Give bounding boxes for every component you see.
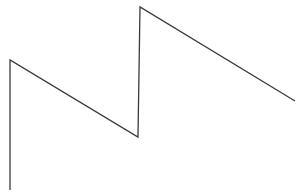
drawing-canvas bbox=[0, 0, 305, 196]
zigzag-line-drawing bbox=[0, 0, 305, 196]
zigzag-polyline bbox=[10, 7, 295, 190]
